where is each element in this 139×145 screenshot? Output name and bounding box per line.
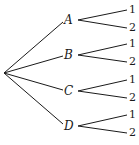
leaf-d-1: 1 bbox=[129, 109, 136, 121]
tree-diagram: A B C D 1 2 1 2 1 2 1 2 bbox=[0, 0, 139, 145]
node-a: A bbox=[64, 14, 73, 26]
node-d: D bbox=[64, 120, 74, 132]
leaf-c-1: 1 bbox=[129, 74, 136, 86]
leaf-a-1: 1 bbox=[129, 4, 136, 16]
leaf-c-2: 2 bbox=[129, 92, 136, 104]
node-b: B bbox=[64, 49, 73, 61]
node-c: C bbox=[64, 85, 73, 97]
leaf-a-2: 2 bbox=[129, 22, 136, 34]
leaf-d-2: 2 bbox=[129, 127, 136, 139]
leaf-b-1: 1 bbox=[129, 38, 136, 50]
leaf-b-2: 2 bbox=[129, 56, 136, 68]
